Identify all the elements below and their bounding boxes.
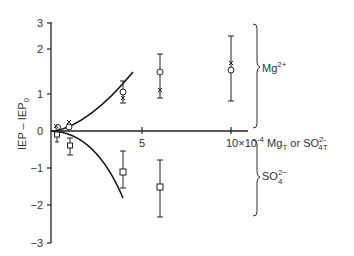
- svg-text:3: 3: [37, 17, 43, 29]
- svg-text:2: 2: [37, 43, 43, 55]
- mg-crosses: [54, 61, 233, 128]
- svg-text:−3: −3: [30, 237, 43, 249]
- mg-annotation: Mg2+: [262, 60, 287, 74]
- svg-text:−2: −2: [30, 199, 43, 211]
- so4-brace: [253, 140, 260, 216]
- so4-annotation: SO2−4: [262, 168, 287, 186]
- svg-text:−1: −1: [30, 162, 43, 174]
- y-axis-label: IEP – IEP0: [16, 98, 31, 151]
- x-tick-5: 5: [139, 137, 145, 149]
- svg-text:1: 1: [37, 88, 43, 100]
- chart: 3 2 1 0 −1 −2 −3 5 10×10-4 MgT or SO2-4T…: [0, 0, 354, 256]
- x-axis-label: 10×10-4 MgT or SO2-4T: [226, 135, 328, 152]
- so4-curve: [51, 131, 123, 198]
- mg-error-bars: [120, 36, 234, 103]
- mg-circles: [56, 67, 235, 130]
- svg-text:0: 0: [37, 125, 43, 137]
- y-tick-labels: 3 2 1 0 −1 −2 −3: [30, 17, 43, 249]
- so4-squares: [55, 132, 164, 190]
- mg-brace: [253, 24, 260, 128]
